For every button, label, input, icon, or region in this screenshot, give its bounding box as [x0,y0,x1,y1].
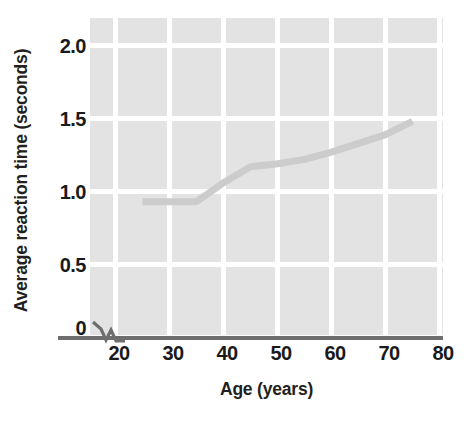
x-axis-tick-labels: 20 30 40 50 60 70 80 [0,343,473,373]
y-tick-label: 2.0 [42,36,86,56]
y-tick-label: 0.5 [42,255,86,275]
series-polyline [143,121,413,201]
x-axis-title: Age (years) [90,379,443,400]
x-tick-label: 20 [94,343,144,363]
x-tick-label: 30 [148,343,198,363]
x-tick-label: 50 [256,343,306,363]
y-axis-title-text: Average reaction time (seconds) [12,48,33,312]
y-tick-label: 1.5 [42,109,86,129]
y-tick-label: 0 [42,318,86,338]
x-tick-label: 60 [310,343,360,363]
x-tick-label: 80 [418,343,468,363]
x-tick-label: 40 [202,343,252,363]
x-tick-label: 70 [364,343,414,363]
y-axis-title: Average reaction time (seconds) [0,0,44,360]
plot-area [90,18,443,337]
y-tick-label: 1.0 [42,182,86,202]
reaction-time-line-chart: Average reaction time (seconds) 2.0 1.5 … [0,0,473,421]
data-series-line [90,18,443,337]
